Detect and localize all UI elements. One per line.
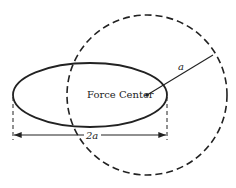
- orbit-diagram: Force Center a 2a: [0, 0, 236, 188]
- radius-label: a: [178, 61, 184, 72]
- dimension-label: 2a: [85, 130, 98, 141]
- force-center-label: Force Center: [87, 89, 154, 100]
